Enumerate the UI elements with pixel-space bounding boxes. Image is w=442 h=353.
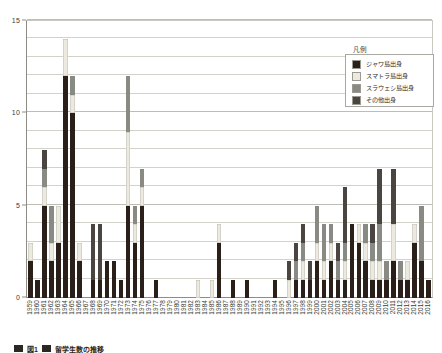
bar-segment-2007-スラウェシ島出身 [363,224,367,242]
bar-1975[interactable] [140,169,144,298]
bar-2011[interactable] [391,169,395,298]
bar-1996[interactable] [287,261,291,298]
bar-2012[interactable] [398,261,402,298]
bar-segment-2011-スマトラ島出身 [391,224,395,261]
x-axis-label-1984: 1984 [202,300,208,315]
bar-segment-2000-ジャワ島出身 [315,261,319,298]
bar-1970[interactable] [105,261,109,298]
bar-segment-1975-ジャワ島出身 [140,206,144,298]
bar-segment-1961-ジャワ島出身 [42,206,46,298]
bar-1974[interactable] [133,206,137,298]
x-axis-label-2003: 2003 [335,300,341,315]
bar-segment-1999-その他出身 [308,261,312,279]
bar-1977[interactable] [154,280,158,298]
x-axis-label-2016: 2016 [425,300,431,315]
bar-2013[interactable] [405,261,409,298]
x-axis-label-2002: 2002 [328,300,334,315]
legend-entry-スマトラ島出身[interactable]: スマトラ島出身 [352,71,408,81]
bar-segment-1973-スマトラ島出身 [126,132,130,206]
bar-2004[interactable] [343,187,347,298]
bar-1998[interactable] [301,224,305,298]
bar-2005[interactable] [350,224,354,298]
bar-segment-1971-ジャワ島出身 [112,261,116,298]
bar-2014[interactable] [412,224,416,298]
bar-segment-1961-その他出身 [42,150,46,168]
bar-segment-1996-スマトラ島出身 [287,280,291,298]
bar-1961[interactable] [42,150,46,298]
bar-2002[interactable] [329,224,333,298]
bar-2006[interactable] [357,224,361,298]
bar-segment-2007-ジャワ島出身 [363,261,367,298]
bar-1966[interactable] [77,243,81,298]
bar-1997[interactable] [294,243,298,298]
x-axis-label-1997: 1997 [293,300,299,315]
bar-segment-1966-ジャワ島出身 [77,261,81,298]
bar-segment-1986-スマトラ島出身 [217,224,221,242]
bar-1986[interactable] [217,224,221,298]
x-axis-label-1995: 1995 [279,300,285,315]
bar-1973[interactable] [126,76,130,298]
bar-1963[interactable] [56,206,60,298]
bar-1999[interactable] [308,261,312,298]
bar-segment-1986-ジャワ島出身 [217,243,221,298]
legend-label: その他出身 [366,97,396,103]
bar-2003[interactable] [336,243,340,298]
bar-1965[interactable] [70,76,74,298]
bar-segment-1998-その他出身 [301,224,305,242]
x-axis-label-1985: 1985 [209,300,215,315]
bar-1994[interactable] [273,280,277,298]
bar-2001[interactable] [322,224,326,298]
x-axis-label-1982: 1982 [188,300,194,315]
x-axis-label-1998: 1998 [300,300,306,315]
x-axis-label-1989: 1989 [237,300,243,315]
bar-2015[interactable] [419,206,423,298]
bar-1959[interactable] [28,243,32,298]
legend-label: ジャワ島出身 [366,61,402,67]
y-axis-label-0: 0 [16,294,20,301]
bar-segment-2013-スマトラ島出身 [405,261,409,279]
bar-1968[interactable] [91,224,95,298]
bar-1988[interactable] [231,280,235,298]
bar-2000[interactable] [315,206,319,298]
bar-segment-1968-ジャワ島出身 [91,280,95,298]
bar-segment-2004-スラウェシ島出身 [343,243,347,261]
x-axis-label-1980: 1980 [174,300,180,315]
bar-segment-2012-スラウェシ島出身 [398,261,402,279]
bar-1971[interactable] [112,261,116,298]
legend-entry-ジャワ島出身[interactable]: ジャワ島出身 [352,59,402,69]
x-axis-label-2001: 2001 [321,300,327,315]
bar-1983[interactable] [196,280,200,298]
legend-swatch-icon [352,84,361,93]
bar-1969[interactable] [98,224,102,298]
bar-segment-1961-スマトラ島出身 [42,187,46,205]
bar-1972[interactable] [119,280,123,298]
figure-container: 051015 195919601961196219631964196519661… [0,0,442,353]
bar-1990[interactable] [245,280,249,298]
bar-segment-2014-ジャワ島出身 [412,243,416,298]
bar-2007[interactable] [363,224,367,298]
bar-segment-1964-ジャワ島出身 [63,76,67,298]
bar-segment-2001-スラウェシ島出身 [322,224,326,261]
bar-segment-2008-その他出身 [370,224,374,242]
bar-1962[interactable] [49,206,53,298]
x-axis-label-1986: 1986 [216,300,222,315]
bar-segment-1963-ジャワ島出身 [56,243,60,298]
legend-entry-スラウェシ島出身[interactable]: スラウェシ島出身 [352,83,414,93]
bar-1985[interactable] [210,280,214,298]
legend-entry-その他出身[interactable]: その他出身 [352,95,396,105]
bar-2010[interactable] [384,261,388,298]
x-axis-label-1981: 1981 [181,300,187,315]
bar-1964[interactable] [63,39,67,298]
bar-segment-1966-スマトラ島出身 [77,243,81,261]
bar-1960[interactable] [35,280,39,298]
bar-segment-1962-ジャワ島出身 [49,261,53,298]
bar-segment-2003-ジャワ島出身 [336,280,340,298]
legend: ジャワ島出身スマトラ島出身スラウェシ島出身その他出身 [345,54,434,107]
bar-segment-1973-スラウェシ島出身 [126,76,130,131]
bar-segment-1990-ジャワ島出身 [245,280,249,298]
bar-segment-1961-スラウェシ島出身 [42,169,46,187]
bar-2008[interactable] [370,224,374,298]
bar-2009[interactable] [377,169,381,298]
legend-label: スマトラ島出身 [366,73,408,79]
bar-2016[interactable] [426,280,430,298]
